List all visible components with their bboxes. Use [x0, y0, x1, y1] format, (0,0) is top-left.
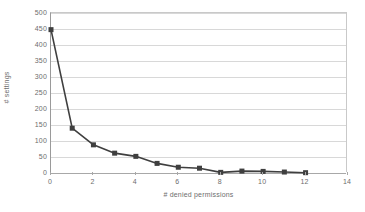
y-tick-label-300: 300 — [3, 73, 47, 80]
y-tick-label-400: 400 — [3, 41, 47, 48]
data-point-2 — [91, 142, 96, 147]
y-tick-label-250: 250 — [3, 89, 47, 96]
data-point-7 — [197, 166, 202, 171]
y-tick-label-200: 200 — [3, 105, 47, 112]
series-polyline — [51, 30, 306, 173]
y-tick-label-150: 150 — [3, 121, 47, 128]
data-point-4 — [133, 154, 138, 159]
x-tick-label-8: 8 — [210, 178, 230, 185]
series-markers — [49, 27, 309, 175]
x-tick-mark-2 — [92, 172, 93, 175]
x-tick-label-4: 4 — [125, 178, 145, 185]
x-tick-label-14: 14 — [337, 178, 357, 185]
x-tick-label-12: 12 — [295, 178, 315, 185]
x-tick-mark-4 — [135, 172, 136, 175]
data-point-3 — [112, 151, 117, 156]
y-tick-label-450: 450 — [3, 25, 47, 32]
x-tick-label-0: 0 — [40, 178, 60, 185]
data-point-1 — [70, 126, 75, 131]
x-tick-mark-10 — [262, 172, 263, 175]
y-axis-title: # settings — [3, 58, 10, 118]
chart-figure: 050100150200250300350400450500 # setting… — [0, 0, 365, 212]
y-tick-label-100: 100 — [3, 137, 47, 144]
series-line-settings — [51, 13, 348, 173]
x-tick-mark-14 — [347, 172, 348, 175]
y-tick-label-0: 0 — [3, 169, 47, 176]
y-tick-label-50: 50 — [3, 153, 47, 160]
x-tick-label-2: 2 — [82, 178, 102, 185]
x-axis-title: # denied permissions — [50, 191, 347, 198]
data-point-5 — [155, 161, 160, 166]
x-tick-mark-6 — [177, 172, 178, 175]
x-tick-mark-0 — [50, 172, 51, 175]
data-point-9 — [239, 169, 244, 174]
x-tick-mark-8 — [220, 172, 221, 175]
y-tick-label-500: 500 — [3, 9, 47, 16]
y-tick-label-350: 350 — [3, 57, 47, 64]
data-point-6 — [176, 165, 181, 170]
plot-area — [50, 12, 347, 172]
data-point-11 — [282, 170, 287, 175]
x-tick-mark-12 — [305, 172, 306, 175]
x-axis-tick-labels: 02468101214 — [0, 178, 365, 190]
x-tick-label-6: 6 — [167, 178, 187, 185]
data-point-0 — [49, 27, 54, 32]
x-tick-label-10: 10 — [252, 178, 272, 185]
